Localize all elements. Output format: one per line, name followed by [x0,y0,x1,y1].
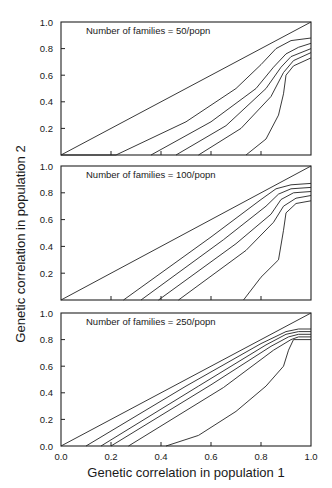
series-line-curve-2 [124,183,312,300]
panel-2: 0.20.40.60.81.0Number of families = 100/… [40,161,311,301]
x-tick-label: 0.0 [54,451,67,462]
y-tick-label: 0.0 [40,441,53,452]
x-tick-label: 0.2 [104,451,117,462]
y-tick-label: 0.4 [40,387,53,398]
panel-1: 0.20.40.60.81.0Number of families = 50/p… [40,17,311,156]
y-axis-label: Genetic correlation in population 2 [13,145,28,342]
chart-canvas: 0.20.40.60.81.0Number of families = 50/p… [0,0,332,488]
x-tick-label: 0.8 [254,451,267,462]
y-tick-label: 0.2 [40,268,53,279]
y-tick-label: 0.4 [40,96,53,107]
y-tick-label: 0.8 [40,43,53,54]
y-tick-label: 0.2 [40,414,53,425]
y-tick-label: 0.8 [40,334,53,345]
y-tick-label: 0.6 [40,361,53,372]
series-line-curve-4 [111,334,311,446]
series-line-curve-2 [61,38,311,155]
y-tick-label: 1.0 [40,308,53,319]
y-tick-label: 0.6 [40,214,53,225]
figure: 0.20.40.60.81.0Number of families = 50/p… [0,0,332,488]
y-tick-label: 0.8 [40,187,53,198]
y-tick-label: 1.0 [40,161,53,172]
x-tick-label: 0.6 [204,451,217,462]
y-tick-label: 1.0 [40,17,53,28]
series-line-curve-6 [246,58,311,155]
y-tick-label: 0.2 [40,123,53,134]
series-line-curve-1 [61,22,311,155]
panel-title: Number of families = 100/popn [86,169,216,180]
series-line-curve-3 [101,332,311,446]
series-line-curve-1 [61,313,311,446]
series-line-curve-4 [159,192,312,301]
series-line-curve-2 [86,329,311,446]
panel-title: Number of families = 50/popn [86,25,210,36]
series-line-curve-5 [199,53,312,155]
x-tick-label: 0.4 [154,451,167,462]
y-tick-label: 0.4 [40,241,53,252]
x-tick-label: 1.0 [304,451,317,462]
series-line-curve-3 [151,43,311,155]
x-axis-label: Genetic correlation in population 1 [87,465,284,480]
panel-title: Number of families = 250/popn [86,316,216,327]
series-line-curve-5 [129,337,312,446]
panel-3: 0.00.20.40.60.81.00.00.20.40.60.81.0Numb… [40,308,318,463]
y-tick-label: 0.6 [40,70,53,81]
